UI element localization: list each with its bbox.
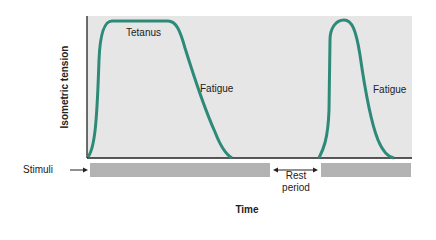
x-axis-label: Time (235, 204, 258, 215)
stimuli-bars-1 (91, 163, 269, 177)
fatigue-label-1: Fatigue (200, 83, 233, 94)
rest-label-line1: Rest (282, 170, 310, 182)
stimuli-arrowhead-icon (83, 168, 88, 173)
rest-arrowhead-right-icon (313, 168, 318, 173)
stimuli-label: Stimuli (23, 164, 53, 175)
y-axis-label: Isometric tension (59, 46, 70, 129)
rest-label-line2: period (282, 182, 310, 194)
stimuli-bars-2 (322, 163, 410, 177)
tetanus-label: Tetanus (126, 27, 161, 38)
rest-period-label: Rest period (282, 170, 310, 194)
rest-arrowhead-left-icon (273, 168, 278, 173)
fatigue-label-2: Fatigue (373, 84, 406, 95)
